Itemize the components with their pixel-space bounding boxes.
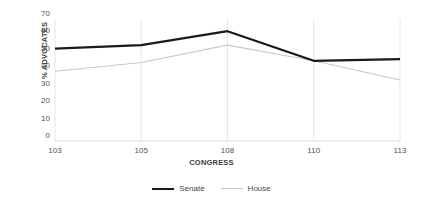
y-tick-label-0: 0: [46, 131, 50, 141]
plot-svg: [55, 19, 400, 141]
legend-item-senate[interactable]: Senate: [152, 184, 204, 193]
y-tick-label-50: 50: [41, 44, 50, 54]
x-tick-label-108: 108: [221, 146, 234, 155]
legend-item-house[interactable]: House: [221, 184, 271, 193]
y-tick-label-70: 70: [41, 9, 50, 19]
line-chart: % ADVOCATES 010203040506070 103105108110…: [0, 0, 423, 205]
x-tick-label-110: 110: [307, 146, 320, 155]
x-tick-label-113: 113: [394, 146, 407, 155]
y-axis-tick-labels: 010203040506070: [22, 14, 50, 142]
y-tick-label-30: 30: [41, 79, 50, 89]
legend-label-house: House: [248, 184, 271, 193]
legend-label-senate: Senate: [179, 184, 204, 193]
chart-legend: SenateHouse: [0, 184, 423, 193]
y-tick-label-20: 20: [41, 96, 50, 106]
legend-swatch-senate-icon: [152, 188, 174, 190]
x-tick-label-105: 105: [135, 146, 148, 155]
x-tick-label-103: 103: [48, 146, 61, 155]
legend-swatch-house-icon: [221, 188, 243, 189]
x-axis-title: CONGRESS: [0, 158, 423, 167]
y-tick-label-40: 40: [41, 61, 50, 71]
y-tick-label-60: 60: [41, 26, 50, 36]
plot-area: [55, 19, 400, 141]
y-tick-label-10: 10: [41, 114, 50, 124]
x-axis-tick-labels: 103105108110113: [55, 146, 400, 158]
